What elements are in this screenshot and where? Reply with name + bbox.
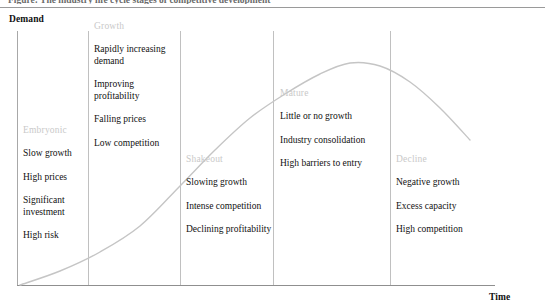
stage-title-mature: Mature: [280, 88, 388, 98]
stage-item: High barriers to entry: [280, 158, 388, 170]
stage-divider-embryonic-growth: [88, 31, 89, 285]
stage-divider-growth-shakeout: [180, 31, 181, 285]
stage-item: High risk: [23, 230, 85, 242]
axis-vertical-line: [17, 31, 18, 285]
figure-caption: Figure: The industry life cycle stages o…: [8, 0, 508, 4]
x-axis-line: [17, 285, 495, 286]
stage-item: Negative growth: [396, 177, 480, 189]
stage-item: Excess capacity: [396, 201, 480, 213]
stage-item: High prices: [23, 172, 85, 184]
stage-item: Little or no growth: [280, 111, 388, 123]
stage-item: Industry consolidation: [280, 135, 388, 147]
stage-item: Significant investment: [23, 195, 85, 218]
stage-title-decline: Decline: [396, 154, 480, 164]
stage-column-decline: Decline Negative growth Excess capacity …: [396, 154, 480, 236]
stage-divider-shakeout-mature: [273, 31, 274, 285]
top-divider-rule: [0, 7, 545, 8]
stage-item: Declining profitability: [186, 224, 272, 236]
stage-item: Intense competition: [186, 201, 272, 213]
stage-item: High competition: [396, 224, 480, 236]
stage-column-embryonic: Embryonic Slow growth High prices Signif…: [23, 125, 85, 242]
stage-item: Rapidly increasing demand: [94, 44, 178, 67]
stage-item: Low competition: [94, 138, 178, 150]
y-axis-label: Demand: [9, 14, 44, 24]
stage-title-shakeout: Shakeout: [186, 154, 272, 164]
stage-divider-mature-decline: [390, 31, 391, 285]
stage-column-growth: Growth Rapidly increasing demand Improvi…: [94, 21, 178, 149]
industry-life-cycle-figure: Figure: The industry life cycle stages o…: [0, 0, 545, 308]
stage-item: Slowing growth: [186, 177, 272, 189]
stage-column-shakeout: Shakeout Slowing growth Intense competit…: [186, 154, 272, 236]
stage-title-embryonic: Embryonic: [23, 125, 85, 135]
stage-column-mature: Mature Little or no growth Industry cons…: [280, 88, 388, 170]
stage-item: Falling prices: [94, 114, 178, 126]
stage-item: Improving profitability: [94, 79, 178, 102]
stage-title-growth: Growth: [94, 21, 178, 31]
stage-item: Slow growth: [23, 148, 85, 160]
x-axis-label: Time: [489, 292, 510, 302]
